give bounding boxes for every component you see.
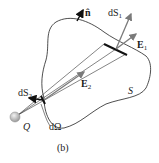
gauss-law-diagram: n̂ dS1 E1 E2 dS2 S Q dΩ (b) xyxy=(0,0,159,163)
e2-label: E2 xyxy=(81,78,92,91)
charge-sphere xyxy=(10,112,20,122)
normal-label: n̂ xyxy=(85,7,91,18)
surface-label: S xyxy=(128,85,133,96)
ds1-label: dS1 xyxy=(108,7,123,20)
e2-arrow xyxy=(44,72,84,100)
charge-label: Q xyxy=(23,121,31,132)
ds1-surface-patch xyxy=(104,44,127,55)
figure-caption: (b) xyxy=(57,142,69,154)
ds2-label: dS2 xyxy=(18,87,33,100)
solid-angle-label: dΩ xyxy=(49,121,61,132)
solid-angle-cone xyxy=(18,44,126,115)
e1-label: E1 xyxy=(137,39,148,52)
